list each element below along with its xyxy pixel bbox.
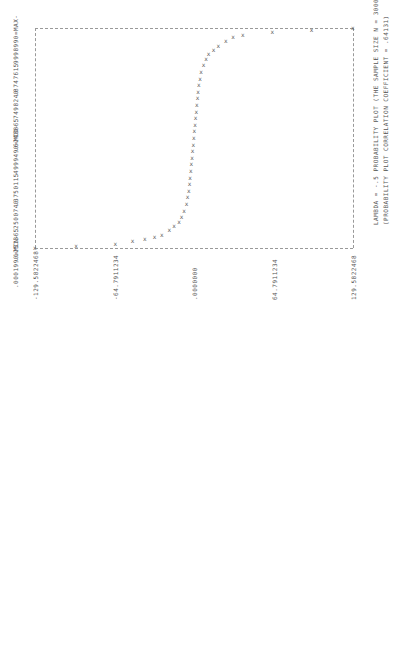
y-tick-label: .9998990=MAX- [12, 15, 19, 68]
data-point: x [197, 82, 201, 88]
data-point: x [196, 89, 200, 95]
data-point: x [231, 34, 235, 40]
plot-frame-left [35, 28, 36, 248]
data-point: x [33, 245, 37, 251]
data-point: x [194, 115, 198, 121]
data-point: x [224, 38, 228, 44]
data-point: x [351, 25, 355, 31]
data-point: x [192, 135, 196, 141]
data-point: x [194, 109, 198, 115]
data-point: x [271, 29, 275, 35]
data-point: x [113, 241, 117, 247]
data-point: x [193, 122, 197, 128]
plot-frame-top [35, 28, 353, 29]
data-point: x [186, 194, 190, 200]
data-point: x [172, 223, 176, 229]
plot-frame-bottom [35, 248, 353, 249]
y-tick-label: .0001990=MIN- [12, 235, 19, 288]
data-point: x [191, 142, 195, 148]
data-point: x [189, 168, 193, 174]
data-point: x [217, 43, 221, 49]
data-point: x [207, 51, 211, 57]
data-point: x [188, 175, 192, 181]
data-point: x [74, 243, 78, 249]
data-point: x [188, 181, 192, 187]
data-point: x [202, 62, 206, 68]
x-tick-label: -129.5822468 [32, 251, 39, 300]
data-point: x [191, 148, 195, 154]
data-point: x [190, 161, 194, 167]
x-tick-label: 64.7911234 [271, 259, 278, 300]
data-point: x [196, 95, 200, 101]
data-point: x [198, 76, 202, 82]
data-point: x [190, 155, 194, 161]
data-point: x [212, 47, 216, 53]
data-point: x [193, 128, 197, 134]
x-tick-label: .0000000 [191, 267, 198, 300]
ppcc-caption: (PROBABILITY PLOT CORRELATION COEFFICIEN… [382, 15, 389, 225]
lambda-caption: LAMBDA = -.5 PROBABILITY PLOT (THE SAMPL… [372, 0, 379, 225]
data-point: x [241, 32, 245, 38]
x-tick-label: 129.5822468 [350, 255, 357, 300]
y-tick-label: .4999490=MID- [12, 125, 19, 178]
data-point: x [160, 232, 164, 238]
data-point: x [153, 234, 157, 240]
data-point: x [180, 214, 184, 220]
data-point: x [310, 27, 314, 33]
plot-frame-right [353, 28, 354, 248]
x-tick-label: -64.7911234 [112, 255, 119, 300]
data-point: x [185, 201, 189, 207]
data-point: x [182, 208, 186, 214]
data-point: x [167, 227, 171, 233]
data-point: x [187, 188, 191, 194]
data-point: x [199, 69, 203, 75]
data-point: x [131, 238, 135, 244]
data-point: x [195, 102, 199, 108]
data-point: x [143, 236, 147, 242]
